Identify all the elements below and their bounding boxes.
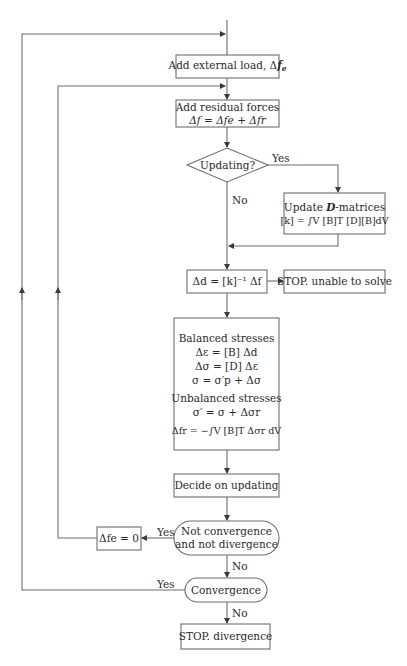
update-post: -matrices <box>335 201 385 213</box>
solve-displacement-label: Δd = [k]⁻¹ Δf <box>187 270 267 293</box>
updating-no-label: No <box>232 194 248 206</box>
convergence-yes-label: Yes <box>157 578 175 590</box>
reset-load-label: Δfe = 0 <box>97 527 141 550</box>
not-conv-line1: Not convergence <box>181 525 272 538</box>
convergence-no-label: No <box>232 607 248 619</box>
decide-updating-label: Decide on updating <box>174 474 279 497</box>
solve-text: Δd = [k]⁻¹ Δf <box>193 275 262 288</box>
arrow-update-return <box>229 234 338 246</box>
stiffness-equation: [k] = ∫V [B]T [D][B]dV <box>280 214 388 227</box>
stop-unable-label: STOP. unable to solve <box>284 270 385 293</box>
residual-force-equation: Δfr = −∫V [B]T Δσr dV <box>172 424 281 438</box>
not-conv-no-label: No <box>232 560 248 572</box>
stop-divergence-text: STOP. divergence <box>179 630 272 643</box>
unbalanced-stress-equation: σ′ = σ + Δσr <box>193 405 260 419</box>
residual-line2: Δf = Δfe + Δfr <box>189 114 266 127</box>
load-sub: e <box>282 64 287 73</box>
balanced-heading: Balanced stresses <box>179 331 275 345</box>
stress-update-equation: σ = σ′p + Δσ <box>192 373 261 387</box>
residual-line1: Add residual forces <box>176 101 280 114</box>
stop-divergence-label: STOP. divergence <box>181 624 270 649</box>
strain-equation: Δε = [B] Δd <box>195 345 257 359</box>
not-conv-line2: and not divergence <box>175 538 278 551</box>
update-pre: Update <box>284 201 326 213</box>
add-external-load-label: Add external load, Δfe <box>176 55 279 78</box>
updating-decision-label: Updating? <box>187 148 268 182</box>
not-conv-yes-label: Yes <box>157 526 175 538</box>
updating-text: Updating? <box>200 159 255 172</box>
add-residual-forces-label: Add residual forces Δf = Δfe + Δfr <box>176 100 279 127</box>
decide-text: Decide on updating <box>174 479 278 492</box>
reset-text: Δfe = 0 <box>99 532 139 545</box>
convergence-label: Convergence <box>185 578 267 602</box>
stress-increment-equation: Δσ = [D] Δε <box>195 359 258 373</box>
convergence-text: Convergence <box>191 584 261 597</box>
arrow-updating-yes <box>268 165 338 192</box>
stop-unable-text: STOP. unable to solve <box>277 275 392 288</box>
update-var: D <box>326 201 335 213</box>
update-d-matrices-label: Update D-matrices [k] = ∫V [B]T [D][B]dV <box>284 193 385 234</box>
not-convergence-label: Not convergence and not divergence <box>174 521 279 555</box>
updating-yes-label: Yes <box>272 152 290 164</box>
unbalanced-heading: Unbalanced stresses <box>171 391 281 405</box>
add-external-load-text: Add external load, Δ <box>169 59 278 71</box>
stresses-label: Balanced stresses Δε = [B] Δd Δσ = [D] Δ… <box>174 318 279 450</box>
